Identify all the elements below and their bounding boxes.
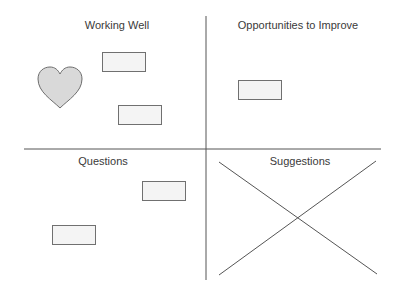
retrospective-board: Working Well Opportunities to Improve Qu… (0, 0, 396, 298)
sticky-note[interactable] (102, 52, 146, 72)
heart-icon (38, 67, 82, 108)
sticky-note[interactable] (52, 225, 96, 245)
quadrant-title-opportunities: Opportunities to Improve (238, 19, 358, 31)
cross-out-icon (219, 161, 377, 275)
quadrant-title-suggestions: Suggestions (270, 155, 331, 167)
board-lines (0, 0, 396, 298)
sticky-note[interactable] (118, 105, 162, 125)
quadrant-title-questions: Questions (78, 155, 128, 167)
sticky-note[interactable] (142, 181, 186, 201)
sticky-note[interactable] (238, 80, 282, 100)
quadrant-title-working-well: Working Well (85, 19, 149, 31)
